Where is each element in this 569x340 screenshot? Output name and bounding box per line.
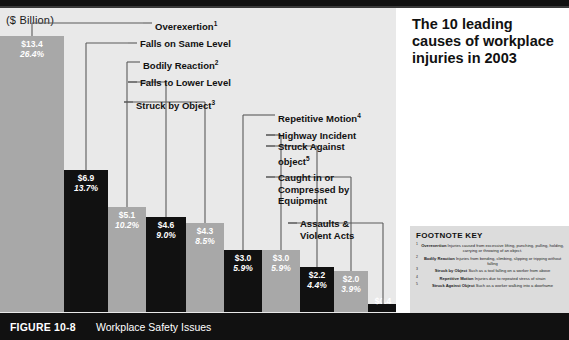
footnote-number-2: 2	[416, 255, 418, 260]
bar-5: $4.38.5%	[186, 223, 224, 312]
footnote-term-1: Overexertion	[421, 243, 447, 248]
callout-6: Repetitive Motion4	[278, 110, 361, 125]
bar-value-10: $0.4	[375, 296, 392, 306]
callout-label-7: Highway Incident	[278, 130, 356, 141]
footnote-key-list: 1Overexertion Injuries caused from exces…	[416, 243, 564, 288]
footnote-text-5: Such as a worker walking into a doorfram…	[476, 283, 553, 288]
bar-label-7: $3.05.9%	[262, 254, 300, 274]
callout-2: Falls on Same Level	[140, 38, 231, 50]
bar-value-2: $6.9	[78, 173, 95, 183]
bar-10: $0.40.8%	[368, 304, 396, 312]
callout-label-4: Falls to Lower Level	[140, 77, 231, 88]
bar-percent-4: 9.0%	[146, 231, 186, 241]
footnote-number-4: 4	[416, 275, 418, 280]
bar-percent-9: 3.9%	[334, 285, 368, 295]
footnote-key-heading: FOOTNOTE KEY	[416, 231, 564, 240]
bar-label-5: $4.38.5%	[186, 227, 224, 247]
bar-value-4: $4.6	[158, 220, 175, 230]
bar-percent-6: 5.9%	[224, 264, 262, 274]
callout-sup-5: 3	[212, 99, 216, 106]
figure-title: The 10 leading causes of workplace injur…	[412, 16, 562, 67]
bar-value-7: $3.0	[273, 253, 290, 263]
callout-sup-3: 2	[215, 59, 219, 66]
bar-8: $2.24.4%	[300, 267, 334, 312]
bar-value-6: $3.0	[235, 253, 252, 263]
callout-label-10: Assaults &Violent Acts	[300, 218, 354, 241]
footnote-term-2: Bodily Reaction	[424, 256, 456, 261]
figure-page: ($ Billion) $13.426.4%$6.913.7%$5.110.2%…	[0, 0, 569, 340]
callout-5: Struck by Object3	[136, 97, 215, 112]
footnote-number-5: 5	[416, 282, 418, 287]
footnote-item-1: 1Overexertion Injuries caused from exces…	[416, 243, 564, 253]
bar-3: $5.110.2%	[108, 207, 146, 312]
footnote-key-panel: FOOTNOTE KEY 1Overexertion Injuries caus…	[410, 226, 569, 318]
footnote-term-5: Struck Against Object	[432, 283, 476, 288]
callout-3: Bodily Reaction2	[143, 57, 218, 72]
footnote-item-4: 4Repetitive Motion Injuries due to repea…	[416, 276, 564, 281]
callout-7: Highway Incident	[278, 130, 356, 142]
bar-label-9: $2.03.9%	[334, 275, 368, 295]
bar-percent-2: 13.7%	[64, 184, 108, 194]
bar-percent-1: 26.4%	[0, 50, 64, 60]
footnote-number-1: 1	[416, 242, 418, 247]
bar-value-8: $2.2	[309, 270, 326, 280]
bar-label-4: $4.69.0%	[146, 221, 186, 241]
bar-label-8: $2.24.4%	[300, 271, 334, 291]
callout-label-1: Overexertion1	[155, 21, 217, 32]
footnote-term-4: Repetitive Motion	[439, 276, 474, 281]
bar-label-2: $6.913.7%	[64, 174, 108, 194]
bar-percent-5: 8.5%	[186, 237, 224, 247]
footnote-text-3: Such as a tool falling on a worker from …	[468, 268, 550, 273]
bar-4: $4.69.0%	[146, 217, 186, 312]
figure-number: FIGURE 10-8	[10, 321, 76, 333]
bar-label-1: $13.426.4%	[0, 40, 64, 60]
figure-caption: Workplace Safety Issues	[96, 321, 211, 333]
footnote-text-1: Injuries caused from excessive lifting, …	[448, 243, 564, 253]
right-column: The 10 leading causes of workplace injur…	[404, 8, 569, 313]
callout-sup-6: 4	[357, 112, 361, 119]
bar-value-9: $2.0	[343, 274, 360, 284]
bar-2: $6.913.7%	[64, 170, 108, 312]
footnote-item-5: 5Struck Against Object Such as a worker …	[416, 283, 564, 288]
callout-label-9: Caught in orCompressed byEquipment	[278, 172, 349, 206]
bar-value-1: $13.4	[21, 39, 42, 49]
callout-8: Struck Againstobject5	[278, 141, 345, 167]
bar-label-3: $5.110.2%	[108, 211, 146, 231]
bar-percent-3: 10.2%	[108, 221, 146, 231]
footnote-text-4: Injuries due to repeated stress of strai…	[475, 276, 546, 281]
bar-value-3: $5.1	[119, 210, 136, 220]
footnote-item-3: 3Struck by Object Such as a tool falling…	[416, 268, 564, 273]
footnote-number-3: 3	[416, 267, 418, 272]
bar-7: $3.05.9%	[262, 250, 300, 312]
footnote-text-2: Injuries from bending, climbing, slippin…	[456, 256, 561, 266]
footnote-term-3: Struck by Object	[435, 268, 469, 273]
bar-label-10: $0.40.8%	[368, 297, 396, 307]
bar-6: $3.05.9%	[224, 250, 262, 312]
callout-1: Overexertion1	[155, 18, 217, 33]
callout-9: Caught in orCompressed byEquipment	[278, 172, 349, 207]
callout-10: Assaults &Violent Acts	[300, 218, 354, 241]
bar-percent-7: 5.9%	[262, 264, 300, 274]
bar-value-5: $4.3	[197, 226, 214, 236]
bar-label-6: $3.05.9%	[224, 254, 262, 274]
bar-9: $2.03.9%	[334, 271, 368, 312]
bar-1: $13.426.4%	[0, 36, 64, 312]
callout-label-3: Bodily Reaction2	[143, 60, 218, 71]
callout-sup-1: 1	[214, 20, 218, 27]
callout-label-8: Struck Againstobject5	[278, 141, 345, 167]
callout-label-6: Repetitive Motion4	[278, 113, 361, 124]
bar-percent-8: 4.4%	[300, 281, 334, 291]
caption-bar	[0, 316, 569, 340]
callout-4: Falls to Lower Level	[140, 77, 231, 89]
callout-label-2: Falls on Same Level	[140, 38, 231, 49]
callout-sup-8: 5	[306, 155, 310, 162]
footnote-item-2: 2Bodily Reaction Injuries from bending, …	[416, 256, 564, 266]
callout-label-5: Struck by Object3	[136, 100, 215, 111]
